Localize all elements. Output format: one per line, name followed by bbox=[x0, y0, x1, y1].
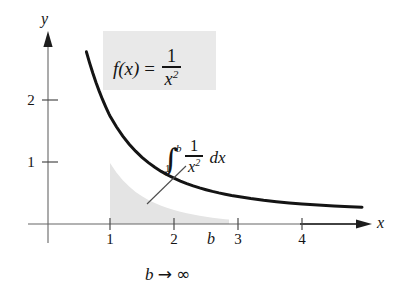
figure-caption: b → ∞ bbox=[145, 266, 190, 283]
integral-differential: dx bbox=[209, 148, 225, 167]
x-tick-label-2: 2 bbox=[167, 231, 181, 248]
caption-variable: b bbox=[145, 265, 154, 284]
caption-infinity: ∞ bbox=[176, 264, 190, 284]
function-label: f(x) = 1 x2 bbox=[113, 47, 183, 88]
x-tick-label-1: 1 bbox=[103, 231, 117, 248]
y-tick-label-1: 1 bbox=[24, 154, 38, 171]
caption-arrow-icon: → bbox=[158, 264, 172, 284]
x-axis-b-marker-label: b bbox=[204, 230, 218, 248]
function-numerator: 1 bbox=[162, 47, 182, 65]
y-tick-label-2: 2 bbox=[24, 92, 38, 109]
integral-annotation: ∫b1 1 x2 dx bbox=[163, 138, 226, 175]
x-tick-label-4: 4 bbox=[295, 231, 309, 248]
function-fraction: 1 x2 bbox=[162, 47, 182, 88]
integral-numerator: 1 bbox=[185, 138, 203, 154]
function-denominator: x2 bbox=[162, 69, 182, 88]
integral-lower-limit: 1 bbox=[165, 164, 171, 173]
function-equals: = bbox=[144, 58, 155, 79]
x-axis-label: x bbox=[377, 215, 384, 231]
figure-root: f(x) = 1 x2 ∫b1 1 x2 dx x y 1 2 3 4 b 1 … bbox=[0, 0, 403, 302]
function-argument: (x) bbox=[118, 58, 139, 79]
y-axis-label: y bbox=[41, 11, 48, 27]
y-axis-arrowhead bbox=[43, 31, 52, 47]
integral-sign: ∫b1 bbox=[163, 147, 179, 173]
integral-upper-limit: b bbox=[176, 144, 182, 153]
fraction-bar bbox=[162, 66, 182, 67]
integral-denominator: x2 bbox=[185, 158, 203, 176]
x-tick-label-3: 3 bbox=[231, 231, 245, 248]
integral-fraction: 1 x2 bbox=[185, 138, 203, 175]
